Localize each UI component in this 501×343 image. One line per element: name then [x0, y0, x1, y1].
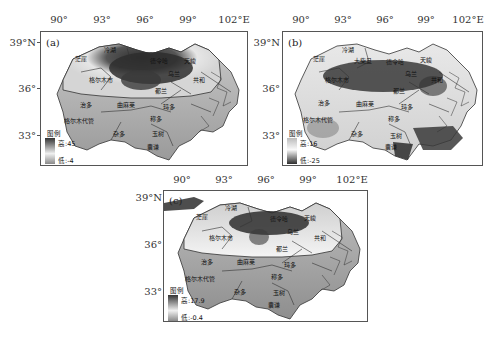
x-tick-90: 90° — [173, 174, 191, 185]
legend-colorbar — [45, 138, 55, 164]
place-lenghu: 冷湖 — [104, 45, 116, 54]
legend-b: 图例 高:16 低:-25 — [286, 128, 331, 166]
map-frame-a: (a) 茫崖 冷湖 德令哈 天峻 乌兰 格尔木市 都兰 共和 治多 曲麻莱 玛多… — [40, 31, 248, 166]
panel-c: 90° 93° 96° 99° 102°E 39°N 36° 33° — [123, 170, 383, 343]
place-zaduo: 杂多 — [113, 129, 125, 138]
y-tick-36: 36° — [262, 83, 280, 94]
legend-low: 低:-25 — [300, 155, 320, 165]
legend-title: 图例 — [47, 128, 61, 138]
panel-b: 90° 93° 96° 99° 102°E 39°N 36° 33° (b) 茫… — [242, 0, 501, 170]
place-geermu-daiguan: 格尔木代管 — [64, 116, 94, 125]
place-zaduo: 杂多 — [351, 129, 363, 138]
place-zhiduo: 治多 — [318, 98, 330, 107]
place-geermu: 格尔木市 — [325, 75, 349, 84]
y-tick-36: 36° — [144, 239, 162, 250]
x-tick-90: 90° — [292, 14, 310, 25]
place-maduo: 玛多 — [284, 260, 296, 269]
place-tianjun: 天峻 — [420, 55, 432, 64]
panel-label-a: (a) — [46, 37, 60, 48]
place-tianjun: 天峻 — [184, 56, 196, 65]
place-chengduo: 称多 — [271, 272, 283, 281]
place-wulan: 乌兰 — [287, 227, 299, 236]
place-yushu: 玉树 — [152, 129, 164, 138]
y-tick-39: 39°N — [136, 192, 162, 203]
x-tick-93: 93° — [215, 174, 233, 185]
place-delingha: 德令哈 — [386, 57, 404, 66]
place-nangqian: 囊谦 — [147, 142, 159, 151]
x-tick-102: 102°E — [336, 174, 367, 185]
place-gonghe: 共和 — [193, 75, 205, 84]
y-tick-39: 39°N — [254, 37, 280, 48]
place-zhiduo: 治多 — [80, 100, 92, 109]
place-maduo: 玛多 — [163, 102, 175, 111]
place-wulan: 乌兰 — [168, 69, 180, 78]
legend-a: 图例 高:45 低:-4 — [44, 128, 89, 166]
legend-colorbar — [287, 138, 297, 164]
x-tick-99: 99° — [179, 14, 197, 25]
y-tick-36: 36° — [18, 83, 36, 94]
place-zhiduo: 治多 — [201, 257, 213, 266]
y-tick-33: 33° — [18, 130, 36, 141]
legend-high: 高:45 — [58, 138, 75, 148]
place-zaduo: 杂多 — [234, 287, 246, 296]
x-tick-96: 96° — [376, 14, 394, 25]
place-chengduo: 称多 — [388, 114, 400, 123]
place-geermu-daiguan: 格尔木代管 — [185, 274, 215, 283]
place-mangya: 茫崖 — [313, 54, 325, 63]
x-tick-93: 93° — [93, 14, 111, 25]
x-tick-93: 93° — [334, 14, 352, 25]
x-tick-102: 102°E — [452, 14, 483, 25]
x-tick-99: 99° — [417, 14, 435, 25]
legend-title: 图例 — [289, 128, 303, 138]
place-mangya: 茫崖 — [196, 212, 208, 221]
place-dachaidan: 大柴旦 — [354, 56, 372, 65]
place-dulan: 都兰 — [155, 86, 167, 95]
place-lenghu: 冷湖 — [342, 45, 354, 54]
place-maduo: 玛多 — [401, 102, 413, 111]
panel-a: 90° 93° 96° 99° 102°E 39°N 36° 33° — [0, 0, 250, 170]
place-nangqian: 囊谦 — [268, 300, 280, 309]
place-dulan: 都兰 — [276, 244, 288, 253]
place-yushu: 玉树 — [273, 288, 285, 297]
legend-title: 图例 — [170, 285, 184, 295]
place-delingha: 德令哈 — [150, 56, 168, 65]
panel-label-c: (c) — [169, 195, 182, 206]
place-tianjun: 天峻 — [304, 213, 316, 222]
place-geermu: 格尔木市 — [209, 233, 233, 242]
place-qumalai: 曲麻莱 — [356, 99, 374, 108]
legend-low: 低:-4 — [58, 155, 74, 165]
x-tick-99: 99° — [299, 174, 317, 185]
place-yushu: 玉树 — [390, 131, 402, 140]
place-geermu-daiguan: 格尔木代管 — [303, 115, 333, 124]
place-qumalai: 曲麻莱 — [237, 257, 255, 266]
x-tick-90: 90° — [50, 14, 68, 25]
y-tick-39: 39°N — [10, 37, 36, 48]
y-tick-33: 33° — [262, 130, 280, 141]
x-tick-96: 96° — [136, 14, 154, 25]
map-frame-b: (b) 茫崖 冷湖 大柴旦 德令哈 天峻 乌兰 格尔木市 都兰 共和 治多 曲麻… — [282, 31, 483, 166]
legend-c: 图例 高:17.9 低:-0.4 — [167, 285, 217, 322]
place-delingha: 德令哈 — [270, 214, 288, 223]
place-qumalai: 曲麻莱 — [117, 100, 135, 109]
legend-high: 高:17.9 — [181, 295, 205, 305]
place-lenghu: 冷湖 — [225, 203, 237, 212]
panel-label-b: (b) — [288, 37, 302, 48]
place-nangqian: 囊谦 — [385, 142, 397, 151]
y-tick-33: 33° — [144, 286, 162, 297]
map-frame-c: (c) 茫崖 冷湖 德令哈 天峻 乌兰 格尔木市 都兰 共和 治多 曲麻莱 玛多… — [163, 190, 368, 322]
place-dulan: 都兰 — [393, 86, 405, 95]
place-mangya: 茫崖 — [75, 54, 87, 63]
place-geermu: 格尔木市 — [89, 75, 113, 84]
place-gonghe: 共和 — [431, 75, 443, 84]
legend-high: 高:16 — [300, 138, 317, 148]
place-gonghe: 共和 — [314, 233, 326, 242]
place-chengduo: 称多 — [150, 114, 162, 123]
place-wulan: 乌兰 — [405, 69, 417, 78]
legend-colorbar — [168, 295, 178, 321]
legend-low: 低:-0.4 — [181, 312, 203, 322]
x-tick-96: 96° — [257, 174, 275, 185]
